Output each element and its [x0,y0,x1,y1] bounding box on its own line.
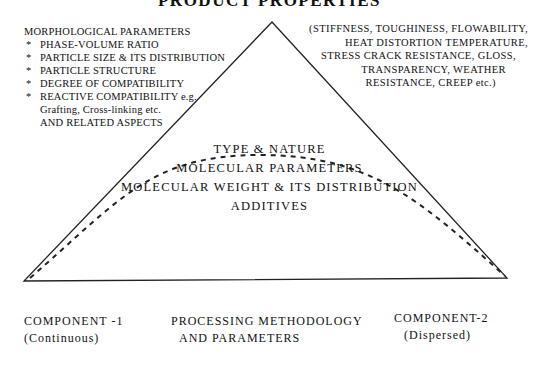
property-line: RESISTANCE, CREEP etc.) [300,76,528,90]
molecular-weight-label: MOLECULAR WEIGHT & ITS DISTRIBUTION [0,180,539,195]
morphological-parameters: MORPHOLOGICAL PARAMETERS *PHASE-VOLUME R… [24,25,225,129]
component-2: COMPONENT-2 (Dispersed) [394,310,489,344]
list-item-continuation: AND RELATED ASPECTS [24,116,225,129]
morphological-header: MORPHOLOGICAL PARAMETERS [24,25,225,38]
bullet-icon: * [24,38,40,51]
processing-line-2: AND PARAMETERS [171,330,363,347]
product-properties-list: (STIFFNESS, TOUGHINESS, FLOWABILITY, HEA… [300,22,528,90]
bullet-icon: * [24,64,40,77]
additives-label: ADDITIVES [0,199,539,214]
component-1-name: COMPONENT -1 [24,313,123,330]
property-line: STRESS CRACK RESISTANCE, GLOSS, [300,49,528,63]
component-1-type: (Continuous) [24,330,123,347]
bullet-icon: * [24,77,40,90]
molecular-parameters-label: MOLECULAR PARAMETERS [0,161,539,176]
property-line: (STIFFNESS, TOUGHINESS, FLOWABILITY, [300,22,528,36]
processing-line-1: PROCESSING METHODOLOGY [171,313,363,330]
processing-methodology: PROCESSING METHODOLOGY AND PARAMETERS [171,313,363,347]
bullet-icon: * [24,90,40,103]
list-item-continuation: Grafting, Cross-linking etc. [24,103,225,116]
property-line: HEAT DISTORTION TEMPERATURE, [300,36,528,50]
component-2-type: (Dispersed) [394,327,489,344]
component-1: COMPONENT -1 (Continuous) [24,313,123,347]
list-item: *REACTIVE COMPATIBILITY e.g. [24,90,225,103]
component-2-name: COMPONENT-2 [394,310,489,327]
property-line: TRANSPARENCY, WEATHER [300,63,528,77]
list-item: *PARTICLE STRUCTURE [24,64,225,77]
list-item: *PHASE-VOLUME RATIO [24,38,225,51]
list-item: *PARTICLE SIZE & ITS DISTRIBUTION [24,51,225,64]
list-item: *DEGREE OF COMPATIBILITY [24,77,225,90]
type-nature-label: TYPE & NATURE [0,142,539,157]
diagram-title: PRODUCT PROPERTIES [0,0,539,11]
bullet-icon: * [24,51,40,64]
